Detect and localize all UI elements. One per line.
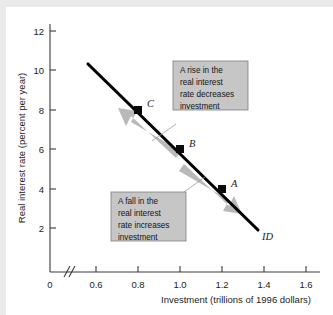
x-tick-label-1-0: 1.0 — [173, 279, 186, 290]
chart-canvas: 12 10 8 6 4 2 0 0.6 0.8 1.0 1.2 1.4 1.6 … — [0, 0, 333, 315]
y-axis-ticks: 12 10 8 6 4 2 — [33, 26, 56, 234]
callout-fall-line-2: real interest — [118, 209, 162, 218]
data-point-C-label: C — [147, 98, 155, 109]
callout-rise-line-1: A rise in the — [180, 66, 223, 75]
data-point-B-marker — [176, 145, 184, 153]
callout-fall-line-3: rate increases — [118, 221, 169, 230]
investment-demand-chart: 12 10 8 6 4 2 0 0.6 0.8 1.0 1.2 1.4 1.6 … — [0, 0, 333, 315]
page-left-edge — [0, 0, 6, 315]
y-axis-title: Real interest rate (percent per year) — [16, 73, 27, 223]
callout-rise: A rise in the real interest rate decreas… — [173, 61, 248, 111]
data-point-A-label: A — [230, 178, 238, 189]
callout-rise-line-3: rate decreases — [180, 90, 234, 99]
data-points-group: C B A — [134, 98, 238, 193]
arrow-rise-to-C — [118, 108, 181, 158]
x-tick-label-0-6: 0.6 — [89, 279, 102, 290]
callout-rise-line-4: investment — [180, 102, 220, 111]
x-tick-label-1-6: 1.6 — [299, 279, 312, 290]
y-tick-label-4: 4 — [39, 184, 44, 195]
callout-rise-line-2: real interest — [180, 78, 224, 87]
y-tick-label-10: 10 — [33, 65, 44, 76]
x-tick-label-1-2: 1.2 — [215, 279, 228, 290]
x-axis-title: Investment (trillions of 1996 dollars) — [161, 294, 311, 305]
page-top-edge — [0, 0, 333, 7]
callout-fall: A fall in the real interest rate increas… — [111, 192, 186, 242]
curve-label-ID: ID — [261, 231, 273, 242]
callout-fall-line-4: investment — [118, 233, 158, 242]
y-tick-label-12: 12 — [33, 26, 44, 37]
y-tick-label-8: 8 — [39, 105, 44, 116]
x-tick-label-0-8: 0.8 — [131, 279, 144, 290]
callout-fall-line-1: A fall in the — [118, 197, 158, 206]
data-point-C-marker — [134, 106, 142, 114]
data-point-B-label: B — [189, 138, 196, 149]
y-tick-label-2: 2 — [39, 223, 44, 234]
y-tick-label-6: 6 — [39, 144, 44, 155]
x-axis-ticks: 0 0.6 0.8 1.0 1.2 1.4 1.6 — [47, 266, 312, 290]
x-tick-label-1-4: 1.4 — [257, 279, 270, 290]
x-origin-label: 0 — [47, 279, 52, 290]
data-point-A-marker — [218, 185, 226, 193]
